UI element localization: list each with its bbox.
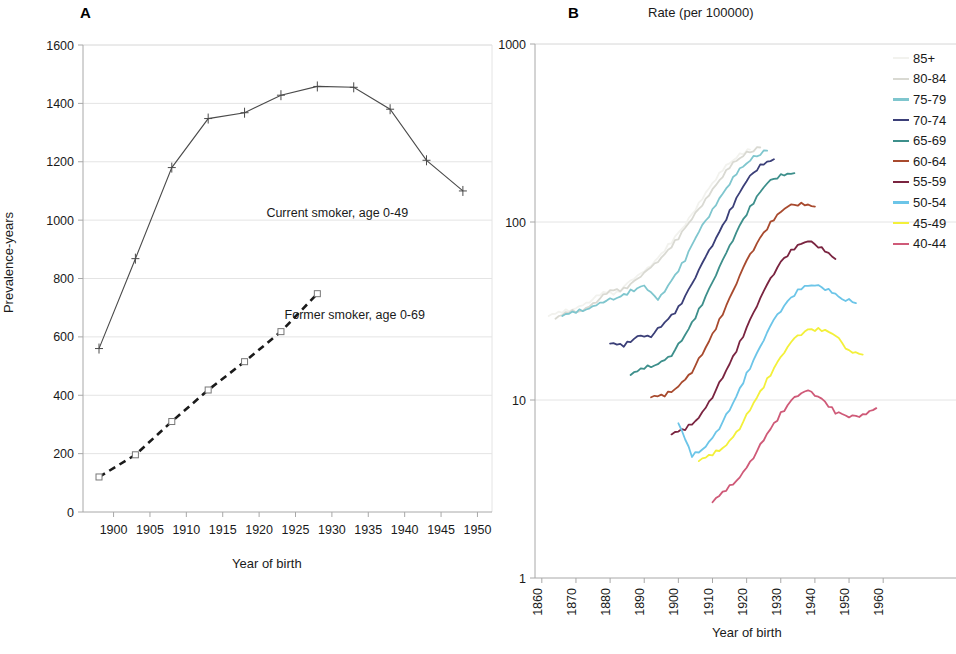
series-line-40-44 — [713, 390, 877, 502]
series-line-45-49 — [699, 328, 863, 461]
panel-a-letter: A — [80, 4, 91, 21]
x-tick-label: 1900 — [667, 588, 681, 616]
y-tick-label: 0 — [67, 506, 74, 520]
legend-swatch-icon — [893, 222, 909, 224]
x-tick-label: 1920 — [245, 523, 273, 537]
legend-swatch-icon — [893, 140, 909, 142]
x-tick-label: 1905 — [136, 523, 164, 537]
y-tick-label: 600 — [53, 330, 74, 344]
series-line-50-54 — [678, 285, 856, 457]
x-tick-label: 1950 — [838, 588, 852, 616]
x-tick-label: 1935 — [354, 523, 382, 537]
legend-item-65-69[interactable]: 65-69 — [893, 130, 956, 151]
panel-a-x-axis-title: Year of birth — [232, 556, 302, 571]
x-tick-label: 1960 — [872, 588, 886, 616]
panel-a-y-axis-title: Prevalence-years — [1, 212, 16, 313]
legend-item-60-64[interactable]: 60-64 — [893, 151, 956, 172]
legend-item-70-74[interactable]: 70-74 — [893, 110, 956, 131]
legend-item-75-79[interactable]: 75-79 — [893, 89, 956, 110]
x-tick-label: 1945 — [427, 523, 455, 537]
x-tick-label: 1930 — [318, 523, 346, 537]
x-tick-label: 1910 — [702, 588, 716, 616]
legend-swatch-icon — [893, 160, 909, 162]
legend-label: 50-54 — [913, 196, 946, 209]
x-tick-label: 1900 — [100, 523, 128, 537]
legend-swatch-icon — [893, 181, 909, 183]
marker-square — [132, 452, 138, 458]
legend-swatch-icon — [893, 78, 909, 80]
legend-item-45-49[interactable]: 45-49 — [893, 213, 956, 234]
series-annotation-0: Current smoker, age 0-49 — [266, 206, 408, 220]
panel-a-plot: 0200400600800100012001400160019001905191… — [0, 0, 500, 560]
panel-b-x-axis-title: Year of birth — [712, 625, 782, 640]
y-tick-label: 1000 — [46, 214, 74, 228]
x-tick-label: 1910 — [172, 523, 200, 537]
marker-square — [96, 474, 102, 480]
series-line-60-64 — [651, 203, 815, 398]
panel-b-legend: 85+80-8475-7970-7465-6960-6455-5950-5445… — [893, 48, 956, 254]
figure-container: A 02004006008001000120014001600190019051… — [0, 0, 956, 654]
legend-item-80-84[interactable]: 80-84 — [893, 69, 956, 90]
x-tick-label: 1860 — [531, 588, 545, 616]
legend-label: 85+ — [913, 52, 935, 65]
legend-item-50-54[interactable]: 50-54 — [893, 192, 956, 213]
legend-label: 80-84 — [913, 72, 946, 85]
legend-item-40-44[interactable]: 40-44 — [893, 233, 956, 254]
x-tick-label: 1890 — [633, 588, 647, 616]
legend-label: 70-74 — [913, 114, 946, 127]
x-tick-label: 1915 — [209, 523, 237, 537]
x-tick-label: 1920 — [736, 588, 750, 616]
marker-square — [169, 419, 175, 425]
legend-label: 45-49 — [913, 217, 946, 230]
panel-b-plot: 1101001000186018701880189019001910192019… — [480, 0, 956, 620]
marker-square — [242, 359, 248, 365]
y-tick-label: 1000 — [498, 38, 526, 52]
marker-square — [278, 329, 284, 335]
legend-label: 40-44 — [913, 237, 946, 250]
x-tick-label: 1925 — [282, 523, 310, 537]
legend-swatch-icon — [893, 98, 909, 100]
y-tick-label: 1400 — [46, 97, 74, 111]
series-annotation-1: Former smoker, age 0-69 — [285, 308, 425, 322]
legend-swatch-icon — [893, 119, 909, 121]
panel-a: A 02004006008001000120014001600190019051… — [0, 0, 500, 654]
y-tick-label: 400 — [53, 389, 74, 403]
legend-label: 75-79 — [913, 93, 946, 106]
y-tick-label: 1200 — [46, 155, 74, 169]
y-tick-label: 1600 — [46, 39, 74, 53]
series-line-80-84 — [556, 147, 761, 319]
legend-label: 55-59 — [913, 175, 946, 188]
marker-square — [314, 291, 320, 297]
series-line-70-74 — [610, 159, 774, 346]
legend-label: 65-69 — [913, 134, 946, 147]
x-tick-label: 1940 — [391, 523, 419, 537]
legend-label: 60-64 — [913, 155, 946, 168]
series-line-65-69 — [631, 173, 795, 375]
legend-swatch-icon — [893, 201, 909, 203]
marker-square — [205, 387, 211, 393]
series-line-55-59 — [672, 241, 836, 434]
y-tick-label: 100 — [505, 216, 526, 230]
legend-item-85+[interactable]: 85+ — [893, 48, 956, 69]
x-tick-label: 1940 — [804, 588, 818, 616]
y-tick-label: 800 — [53, 272, 74, 286]
x-tick-label: 1880 — [599, 588, 613, 616]
y-tick-label: 200 — [53, 447, 74, 461]
legend-item-55-59[interactable]: 55-59 — [893, 172, 956, 193]
y-tick-label: 10 — [512, 394, 526, 408]
y-tick-label: 1 — [519, 572, 526, 586]
x-tick-label: 1930 — [770, 588, 784, 616]
x-tick-label: 1870 — [565, 588, 579, 616]
legend-swatch-icon — [893, 243, 909, 245]
legend-swatch-icon — [893, 57, 909, 59]
